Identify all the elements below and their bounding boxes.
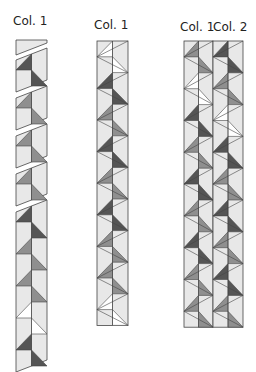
quilt-strips-diagram: [0, 0, 256, 372]
